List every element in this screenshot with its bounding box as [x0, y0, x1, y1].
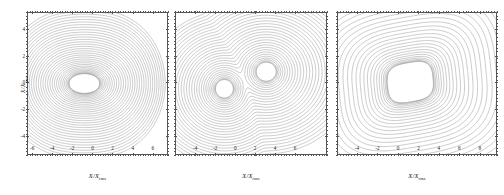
panel-2-y-minor-tick [174, 69, 176, 70]
panel-3-x-minor-tick [468, 154, 469, 156]
panel-3-y-minor-tick [496, 91, 498, 92]
panel-1-x-minor-tick [165, 154, 166, 156]
panel-3-x-minor-tick [443, 11, 444, 13]
panel-2-x-minor-tick [251, 11, 252, 13]
panel-2-x-minor-tick [229, 11, 230, 13]
panel-1-x-minor-tick [45, 11, 46, 13]
panel-3-y-minor-tick [496, 80, 498, 81]
panel-3-x-minor-tick [486, 11, 487, 13]
panel-1-x-minor-tick [47, 154, 48, 156]
panel-2-y-minor-tick [326, 130, 328, 131]
panel-3-x-tick-label: -2 [375, 145, 379, 151]
panel-3-x-minor-tick [420, 11, 421, 13]
panel-3-x-minor-tick [486, 154, 487, 156]
panel-2-x-tick [295, 153, 296, 156]
panel-2-y-minor-tick [326, 23, 328, 24]
panel-2-x-minor-tick [224, 154, 225, 156]
panel-3-x-tick-label: 8 [479, 145, 482, 151]
panel-2-y-minor-tick [174, 123, 176, 124]
panel-3-y-minor-tick [336, 123, 338, 124]
panel-2-y-minor-tick [174, 116, 176, 117]
panel-3-y-minor-tick [336, 73, 338, 74]
panel-1-x-minor-tick [145, 11, 146, 13]
panel-2-y-minor-tick [174, 98, 176, 99]
panel-2-frame [175, 12, 327, 155]
panel-3-y-minor-tick [496, 112, 498, 113]
panel-1-x-minor-tick [35, 154, 36, 156]
panel-3-x-minor-tick [368, 11, 369, 13]
panel-3-x-minor-tick [417, 11, 418, 13]
panel-3-y-tick [336, 82, 339, 83]
panel-3-x-minor-tick [434, 11, 435, 13]
panel-2-x-minor-tick [303, 11, 304, 13]
panel-3-x-minor-tick [471, 154, 472, 156]
panel-2-y-minor-tick [174, 151, 176, 152]
panel-1-x-minor-tick [67, 154, 68, 156]
panel-2-y-minor-tick [326, 51, 328, 52]
panel-2-x-minor-tick [262, 154, 263, 156]
panel-3-y-minor-tick [496, 126, 498, 127]
panel-1-x-minor-tick [100, 11, 101, 13]
panel-3-x-minor-tick [348, 11, 349, 13]
panel-3-x-minor-tick [466, 11, 467, 13]
panel-3-x-minor-tick [448, 154, 449, 156]
panel-2-y-minor-tick [174, 41, 176, 42]
panel-1-x-minor-tick [70, 11, 71, 13]
panel-2-x-minor-tick [186, 154, 187, 156]
panel-2-y-minor-tick [326, 37, 328, 38]
panel-2-x-minor-tick [221, 154, 222, 156]
panel-3-y-tick [495, 82, 498, 83]
panel-1-y-minor-tick [167, 91, 169, 92]
panel-2-y-minor-tick [174, 80, 176, 81]
panel-2-y-minor-tick [326, 101, 328, 102]
panel-3-y-minor-tick [496, 58, 498, 59]
panel-1-y-minor-tick [167, 26, 169, 27]
panel-1-y-minor-tick [26, 12, 28, 13]
panel-1-y-minor-tick [167, 87, 169, 88]
panel-1-x-minor-tick [110, 154, 111, 156]
panel-1-x-minor-tick [55, 11, 56, 13]
panel-2-x-minor-tick [292, 11, 293, 13]
panel-3-y-minor-tick [496, 119, 498, 120]
panel-1-x-minor-tick [40, 154, 41, 156]
panel-2-y-minor-tick [174, 73, 176, 74]
panel-3-x-minor-tick [417, 154, 418, 156]
panel-1-x-minor-tick [77, 11, 78, 13]
panel-3-x-minor-tick [446, 154, 447, 156]
panel-1-x-tick-label: 6 [151, 145, 154, 151]
panel-3-y-minor-tick [496, 73, 498, 74]
panel-2-x-minor-tick [284, 154, 285, 156]
panel-2-y-minor-tick [326, 105, 328, 106]
panel-1-x-minor-tick [130, 11, 131, 13]
panel-3-x-minor-tick [363, 154, 364, 156]
panel-1-y-minor-tick [167, 151, 169, 152]
panel-1-x-tick [112, 11, 113, 14]
panel-2-y-minor-tick [174, 62, 176, 63]
panel-3-x-minor-tick [463, 11, 464, 13]
panel-2-x-minor-tick [297, 154, 298, 156]
panel-3-x-axis-title: X/Xrms [408, 172, 425, 181]
panel-3-y-minor-tick [496, 51, 498, 52]
panel-2-x-minor-tick [189, 11, 190, 13]
panel-3-x-tick-label: 4 [438, 145, 441, 151]
panel-1-x-tick [133, 11, 134, 14]
panel-3-y-minor-tick [336, 87, 338, 88]
panel-3-y-minor-tick [496, 19, 498, 20]
panel-2-x-minor-tick [265, 154, 266, 156]
panel-1-y-minor-tick [26, 148, 28, 149]
panel-2-y-minor-tick [326, 116, 328, 117]
panel-2-x-minor-tick [267, 154, 268, 156]
panel-3-x-minor-tick [351, 154, 352, 156]
panel-3-y-minor-tick [496, 26, 498, 27]
panel-1-x-minor-tick [82, 11, 83, 13]
panel-2-x-minor-tick [218, 154, 219, 156]
panel-3-x-minor-tick [354, 11, 355, 13]
panel-3-x-minor-tick [491, 11, 492, 13]
panel-1-x-minor-tick [155, 11, 156, 13]
panel-1-y-minor-tick [167, 37, 169, 38]
panel-2-x-minor-tick [259, 11, 260, 13]
panel-3-x-minor-tick [451, 11, 452, 13]
panel-3-x-tick [357, 153, 358, 156]
panel-1-y-minor-tick [26, 151, 28, 152]
panel-1-x-minor-tick [135, 154, 136, 156]
